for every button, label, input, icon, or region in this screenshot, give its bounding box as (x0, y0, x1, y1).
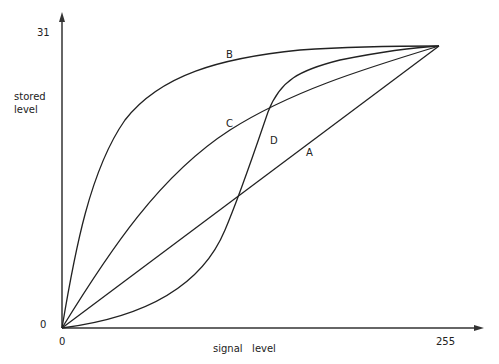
curve-label-c: C (226, 118, 233, 129)
curve-a (62, 46, 439, 328)
curve-label-d: D (270, 135, 278, 146)
y-tick-zero: 0 (40, 319, 46, 331)
x-axis-arrow-icon (474, 325, 484, 331)
x-axis-label: signal level (213, 343, 276, 355)
curve-label-a: A (306, 147, 313, 158)
y-axis-label-line2: level (14, 104, 38, 116)
x-tick-max: 255 (436, 336, 455, 348)
curve-label-b: B (226, 49, 233, 60)
y-axis-arrow-icon (59, 12, 65, 22)
y-tick-max: 31 (37, 27, 50, 39)
x-tick-zero: 0 (59, 336, 65, 348)
chart-plot (0, 0, 499, 364)
y-axis-label-line1: stored (14, 91, 46, 103)
